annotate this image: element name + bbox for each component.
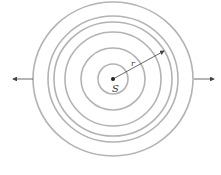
source-point [111, 77, 115, 81]
wave-diagram: S r [0, 0, 221, 175]
radius-arrow [113, 51, 164, 79]
source-label: S [112, 83, 119, 94]
